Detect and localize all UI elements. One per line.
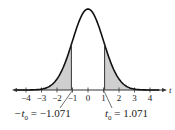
t-distribution-diagram: t −4−3−2−101234 −t0 = −1.071 t0 = 1.071 (0, 0, 175, 130)
density-curve (17, 9, 160, 90)
tick-label: 3 (132, 93, 137, 103)
axis-label-t: t (169, 85, 172, 95)
tick-label: 4 (148, 93, 153, 103)
axis-left-arrow-icon (12, 88, 17, 92)
tick-label: 0 (86, 93, 91, 103)
left-critical-label: −t0 = −1.071 (14, 107, 71, 122)
axis-right-arrow-icon (162, 88, 167, 92)
tick-label: 1 (101, 93, 106, 103)
right-critical-label: t0 = 1.071 (105, 107, 148, 122)
tick-label: −4 (21, 93, 31, 103)
tick-label: −2 (52, 93, 62, 103)
tick-label: −3 (37, 93, 47, 103)
tick-label: 2 (117, 93, 122, 103)
